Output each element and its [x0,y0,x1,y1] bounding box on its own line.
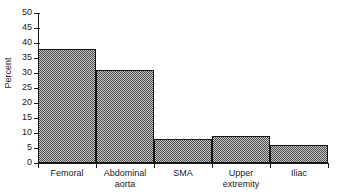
y-axis-tick-label: 50 [12,8,32,18]
y-axis-tick-value: 30 [16,68,32,77]
x-axis-label: Femoral [38,168,96,179]
y-axis-tick-value: 50 [16,8,32,17]
y-axis-tick-value: 40 [16,38,32,47]
y-axis-tick-label: 35 [12,53,32,63]
y-axis-tick-label: 20 [12,98,32,108]
bar [270,145,328,163]
y-axis-tick-label: 10 [12,128,32,138]
y-axis-tick-label: 30 [12,68,32,78]
x-axis-label-line: Upper [212,168,270,179]
bar [212,136,270,163]
y-axis-tick-label: 5 [12,143,32,153]
y-axis-tick-value: 15 [16,113,32,122]
x-axis-line [38,163,328,164]
x-axis-label-line: Abdominal [96,168,154,179]
y-axis-tick-value: 20 [16,98,32,107]
x-axis-label-line: SMA [154,168,212,179]
y-axis-tick-label: 15 [12,113,32,123]
x-axis-label-line: Iliac [270,168,328,179]
x-axis-label-line: aorta [96,179,154,190]
y-axis-tick-label: 0 [12,158,32,168]
bar-chart: Percent 05101520253035404550 FemoralAbdo… [0,0,337,194]
x-axis-label: SMA [154,168,212,179]
y-axis-tick-value: 35 [16,53,32,62]
y-axis-tick-value: 45 [16,23,32,32]
plot-area [38,13,328,163]
x-axis-label: Upperextremity [212,168,270,190]
y-axis-tick-value: 0 [16,158,32,167]
x-axis-tick [328,163,329,168]
y-axis-tick-label: 40 [12,38,32,48]
bar [96,70,154,163]
x-axis-label-line: extremity [212,179,270,190]
y-axis-tick-value: 10 [16,128,32,137]
bar [154,139,212,163]
y-axis-tick-label: 25 [12,83,32,93]
bar [38,49,96,163]
x-axis-label: Iliac [270,168,328,179]
y-axis-tick-label: 45 [12,23,32,33]
x-axis-label: Abdominalaorta [96,168,154,190]
y-axis-tick-value: 25 [16,83,32,92]
x-axis-label-line: Femoral [38,168,96,179]
y-axis-tick-value: 5 [16,143,32,152]
